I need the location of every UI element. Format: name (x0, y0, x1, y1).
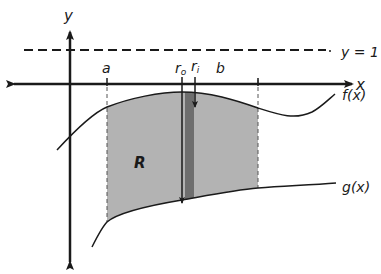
region-label: R (134, 154, 146, 172)
bound-a-label: a (102, 60, 111, 76)
curve-f-label: f(x) (342, 87, 366, 103)
y-equals-1-label: y = 1 (340, 44, 379, 60)
radius-outer-label: ro (175, 60, 187, 77)
curve-g-label: g(x) (342, 179, 370, 195)
bound-b-label: b (216, 60, 225, 76)
y-axis-label: y (63, 7, 74, 25)
diagram-canvas: y x y = 1 a b ro ri R f(x) g(x) (0, 0, 381, 274)
radius-inner-label: ri (191, 58, 200, 75)
